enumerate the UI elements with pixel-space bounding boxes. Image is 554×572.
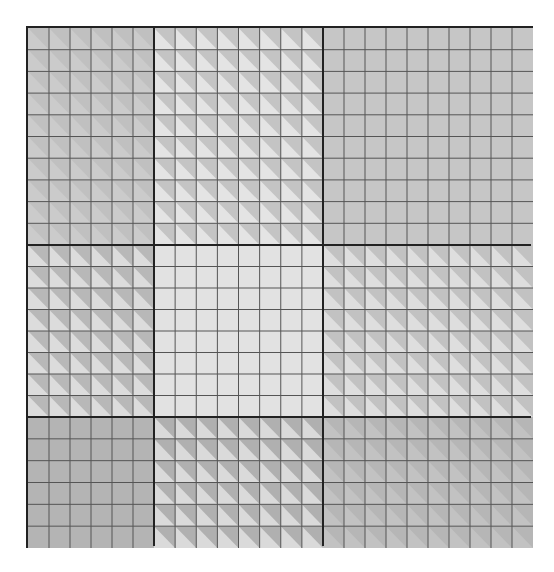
grid-board [26, 26, 533, 548]
block-r0c0 [28, 28, 154, 245]
block-r2c2 [323, 417, 533, 548]
block-r0c1 [154, 28, 323, 245]
block-r1c2 [323, 245, 533, 417]
block-divider-horizontal [28, 416, 531, 418]
block-r2c1 [154, 417, 323, 548]
block-divider-vertical [322, 28, 324, 546]
block-r0c2 [323, 28, 533, 245]
block-r1c1 [154, 245, 323, 417]
block-divider-vertical [153, 28, 155, 546]
block-divider-horizontal [28, 244, 531, 246]
block-r2c0 [28, 417, 154, 548]
block-r1c0 [28, 245, 154, 417]
